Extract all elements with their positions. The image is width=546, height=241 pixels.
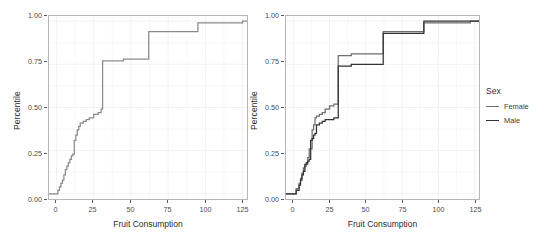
- y-tick-label: 0.25: [16, 149, 42, 158]
- y-tick-label: 1.00: [16, 11, 42, 20]
- chart-panel-right: 0.00 0.25 0.50 0.75 1.00 0 25 50 75 100 …: [258, 0, 480, 241]
- y-tick-mark: [281, 107, 284, 108]
- legend-title: Sex: [486, 86, 544, 96]
- x-axis-label: Fruit Consumption: [285, 219, 480, 229]
- x-tick-mark: [365, 200, 366, 203]
- y-tick-mark: [44, 15, 47, 16]
- ecdf-curve-left: [49, 16, 247, 199]
- x-tick-mark: [292, 200, 293, 203]
- y-tick-mark: [44, 61, 47, 62]
- plot-area-left: [48, 15, 248, 200]
- x-tick-label: 0: [43, 205, 68, 214]
- y-tick-label: 0.75: [253, 57, 279, 66]
- y-tick-mark: [281, 153, 284, 154]
- y-tick-mark: [281, 15, 284, 16]
- y-tick-mark: [44, 107, 47, 108]
- ecdf-curves-right: [286, 16, 479, 199]
- x-tick-label: 25: [317, 205, 342, 214]
- x-tick-mark: [242, 200, 243, 203]
- x-tick-mark: [167, 200, 168, 203]
- x-tick-label: 75: [155, 205, 180, 214]
- x-tick-label: 100: [426, 205, 451, 214]
- x-tick-label: 125: [230, 205, 255, 214]
- y-tick-mark: [44, 199, 47, 200]
- x-tick-label: 75: [390, 205, 415, 214]
- y-tick-label: 0.25: [253, 149, 279, 158]
- y-tick-mark: [281, 61, 284, 62]
- x-tick-label: 50: [118, 205, 143, 214]
- plot-area-right: [285, 15, 480, 200]
- x-tick-mark: [438, 200, 439, 203]
- chart-figure: 0.00 0.25 0.50 0.75 1.00 0 25 50 75 100 …: [0, 0, 546, 241]
- x-axis-label: Fruit Consumption: [48, 219, 248, 229]
- x-tick-label: 50: [353, 205, 378, 214]
- y-tick-label: 0.00: [253, 195, 279, 204]
- x-tick-label: 25: [80, 205, 105, 214]
- x-tick-mark: [205, 200, 206, 203]
- legend: Sex Female Male: [486, 86, 544, 130]
- y-tick-mark: [281, 199, 284, 200]
- x-tick-label: 100: [193, 205, 218, 214]
- chart-panel-left: 0.00 0.25 0.50 0.75 1.00 0 25 50 75 100 …: [0, 0, 258, 241]
- y-tick-label: 0.75: [16, 57, 42, 66]
- y-tick-mark: [44, 153, 47, 154]
- legend-label-female: Female: [504, 102, 529, 111]
- legend-label-male: Male: [504, 116, 520, 125]
- x-tick-mark: [475, 200, 476, 203]
- legend-item-female[interactable]: Female: [486, 102, 544, 111]
- x-tick-label: 0: [280, 205, 305, 214]
- x-tick-mark: [329, 200, 330, 203]
- x-tick-mark: [402, 200, 403, 203]
- x-tick-mark: [92, 200, 93, 203]
- x-tick-label: 125: [463, 205, 488, 214]
- legend-key-male: [486, 120, 499, 121]
- x-tick-mark: [55, 200, 56, 203]
- y-tick-label: 0.00: [16, 195, 42, 204]
- y-axis-label: Percentile: [12, 91, 22, 130]
- x-tick-mark: [130, 200, 131, 203]
- y-tick-label: 1.00: [253, 11, 279, 20]
- legend-key-female: [486, 106, 499, 107]
- y-axis-label: Percentile: [249, 91, 259, 130]
- legend-item-male[interactable]: Male: [486, 116, 544, 125]
